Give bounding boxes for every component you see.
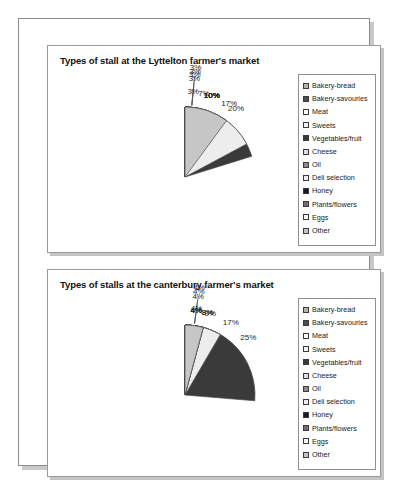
legend-swatch-icon [303, 346, 309, 352]
legend-swatch-icon [303, 333, 309, 339]
legend-item-eggs: Eggs [303, 435, 372, 448]
legend-item-label: Honey [312, 187, 333, 194]
legend-item-plants-flowers: Plants/flowers [303, 422, 372, 435]
legend-swatch-icon [303, 438, 309, 444]
legend-item-label: Vegetables/fruit [312, 359, 362, 366]
legend-item-label: Plants/flowers [312, 201, 357, 208]
legend-item-label: Cheese [312, 148, 337, 155]
legend-item-label: Oil [312, 385, 321, 392]
chart-panel-1: Types of stall at the Lyttelton farmer's… [47, 45, 381, 253]
legend-item-label: Eggs [312, 438, 328, 445]
legend-item-eggs: Eggs [303, 211, 372, 224]
legend-swatch-icon [303, 452, 309, 458]
legend-item-plants-flowers: Plants/flowers [303, 198, 372, 211]
legend-item-label: Vegetables/fruit [312, 135, 362, 142]
legend-item-other: Other [303, 224, 372, 237]
chart-1-legend: Bakery-breadBakery-savouriesMeatSweetsVe… [298, 74, 376, 246]
pie-slice-label: 4% [191, 305, 203, 314]
chart-panel-2: Types of stalls at the canterbury farmer… [47, 269, 381, 477]
chart-2-title: Types of stalls at the canterbury farmer… [60, 279, 274, 290]
legend-swatch-icon [303, 425, 309, 431]
pie-chart-1: 3%10%10%10%20%7%3%17%3%3%3%10% [110, 102, 260, 252]
legend-swatch-icon [303, 359, 309, 365]
legend-item-vegetables-fruit: Vegetables/fruit [303, 132, 372, 145]
legend-swatch-icon [303, 122, 309, 128]
legend-item-cheese: Cheese [303, 145, 372, 158]
legend-item-label: Other [312, 227, 330, 234]
pie-chart-2: 4%4%17%9%25%4%8%8%4%4%4%4% [110, 320, 260, 470]
legend-item-label: Honey [312, 411, 333, 418]
legend-item-label: Oil [312, 161, 321, 168]
pie-slice-label: 17% [221, 99, 237, 108]
legend-swatch-icon [303, 175, 309, 181]
legend-swatch-icon [303, 201, 309, 207]
legend-item-honey: Honey [303, 185, 372, 198]
legend-item-bakery-bread: Bakery-bread [303, 303, 372, 316]
legend-item-deli-selection: Deli selection [303, 395, 372, 408]
legend-item-meat: Meat [303, 105, 372, 118]
legend-swatch-icon [303, 307, 309, 313]
legend-swatch-icon [303, 149, 309, 155]
legend-item-label: Sweets [312, 122, 336, 129]
legend-item-oil: Oil [303, 158, 372, 171]
legend-swatch-icon [303, 412, 309, 418]
legend-swatch-icon [303, 135, 309, 141]
legend-swatch-icon [303, 320, 309, 326]
pie-slice-label: 3% [190, 62, 202, 71]
legend-item-label: Sweets [312, 346, 336, 353]
pie-slice-label: 10% [204, 91, 220, 100]
legend-swatch-icon [303, 83, 309, 89]
legend-item-meat: Meat [303, 329, 372, 342]
pie-slice-label: 8% [202, 308, 214, 317]
legend-item-label: Plants/flowers [312, 425, 357, 432]
legend-item-label: Meat [312, 108, 328, 115]
pie-slice-label: 4% [194, 282, 206, 291]
legend-item-label: Bakery-bread [312, 82, 355, 89]
legend-item-bakery-savouries: Bakery-savouries [303, 316, 372, 329]
legend-swatch-icon [303, 373, 309, 379]
legend-item-label: Deli selection [312, 398, 355, 405]
legend-swatch-icon [303, 399, 309, 405]
legend-swatch-icon [303, 96, 309, 102]
pie-slice-label: 17% [223, 318, 239, 327]
legend-swatch-icon [303, 214, 309, 220]
legend-item-bakery-savouries: Bakery-savouries [303, 92, 372, 105]
legend-item-bakery-bread: Bakery-bread [303, 79, 372, 92]
chart-1-title: Types of stall at the Lyttelton farmer's… [60, 55, 259, 66]
pie-2-svg [110, 320, 260, 470]
legend-item-deli-selection: Deli selection [303, 171, 372, 184]
legend-item-sweets: Sweets [303, 119, 372, 132]
legend-item-label: Bakery-savouries [312, 95, 368, 102]
page-canvas: Types of stall at the Lyttelton farmer's… [0, 0, 394, 486]
legend-item-honey: Honey [303, 409, 372, 422]
legend-item-vegetables-fruit: Vegetables/fruit [303, 356, 372, 369]
legend-item-sweets: Sweets [303, 343, 372, 356]
legend-swatch-icon [303, 188, 309, 194]
legend-item-label: Cheese [312, 372, 337, 379]
paper-sheet: Types of stall at the Lyttelton farmer's… [18, 18, 370, 466]
legend-item-other: Other [303, 448, 372, 461]
chart-2-legend: Bakery-breadBakery-savouriesMeatSweetsVe… [298, 298, 376, 470]
legend-item-label: Eggs [312, 214, 328, 221]
legend-swatch-icon [303, 109, 309, 115]
legend-item-label: Deli selection [312, 174, 355, 181]
pie-slice-label: 25% [240, 332, 256, 341]
pie-1-svg [110, 102, 260, 252]
legend-swatch-icon [303, 228, 309, 234]
legend-item-label: Bakery-savouries [312, 319, 368, 326]
legend-item-label: Bakery-bread [312, 306, 355, 313]
legend-item-oil: Oil [303, 382, 372, 395]
legend-swatch-icon [303, 162, 309, 168]
legend-item-cheese: Cheese [303, 369, 372, 382]
legend-swatch-icon [303, 386, 309, 392]
legend-item-label: Other [312, 451, 330, 458]
legend-item-label: Meat [312, 332, 328, 339]
